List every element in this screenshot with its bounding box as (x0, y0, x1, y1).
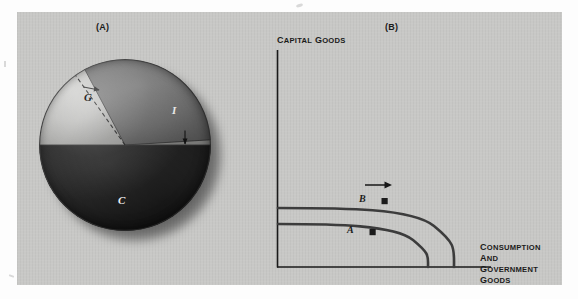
pie-label-c: C (118, 194, 125, 206)
scan-speck (4, 61, 6, 67)
pie-label-i: I (172, 104, 176, 116)
point-a-label: A (347, 224, 354, 235)
pie-label-g: G (84, 91, 92, 103)
point-a-marker (370, 229, 376, 235)
panel-b-ppf-chart: CAPITAL GOODS CONSUMPTION AND GOVERNMENT… (258, 30, 558, 280)
ppf-axes (277, 50, 491, 268)
x-axis-label-line2: AND GOVERNMENT GOODS (480, 253, 558, 286)
scan-speck (296, 3, 304, 8)
growth-arrow-icon (365, 182, 392, 189)
x-axis-label-line1: CONSUMPTION (480, 242, 558, 253)
y-axis-label: CAPITAL GOODS (277, 35, 346, 46)
point-b-label: B (359, 193, 366, 204)
point-b-marker (382, 198, 388, 204)
scan-speck (9, 274, 14, 278)
x-axis-label: CONSUMPTION AND GOVERNMENT GOODS (480, 242, 558, 286)
figure-root: (A) (B) (0, 0, 578, 299)
panel-a-pie-chart: G I C (39, 59, 219, 245)
panel-a-caption: (A) (96, 22, 109, 32)
y-axis-label-text: CAPITAL GOODS (277, 35, 346, 45)
